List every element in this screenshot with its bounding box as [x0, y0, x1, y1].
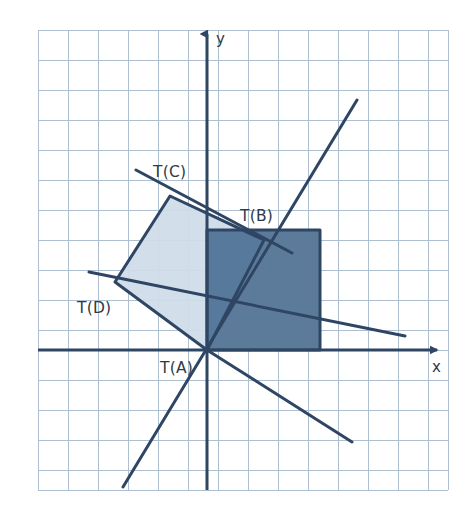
label-t-a: T(A)	[159, 359, 193, 377]
label-t-d: T(D)	[76, 299, 111, 317]
coordinate-plane-canvas: y x T(A) T(B) T(C) T(D)	[0, 0, 475, 527]
x-axis-label: x	[432, 358, 441, 376]
y-axis-label: y	[216, 30, 225, 48]
label-t-b: T(B)	[239, 207, 273, 225]
rotation-diagram-figure: y x T(A) T(B) T(C) T(D)	[0, 0, 475, 527]
label-t-c: T(C)	[152, 163, 186, 181]
